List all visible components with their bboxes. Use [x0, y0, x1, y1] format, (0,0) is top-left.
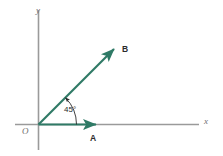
vector-b-arrow — [39, 49, 115, 125]
vector-b-label: B — [122, 45, 128, 54]
angle-measure-label: 45° — [64, 106, 76, 114]
origin-label: O — [22, 127, 29, 136]
vector-diagram-figure: y x O A B 45° — [0, 0, 223, 156]
vector-diagram-canvas — [0, 0, 223, 156]
vector-a-label: A — [90, 134, 96, 143]
y-axis-label: y — [36, 6, 40, 15]
x-axis-label: x — [204, 117, 208, 126]
